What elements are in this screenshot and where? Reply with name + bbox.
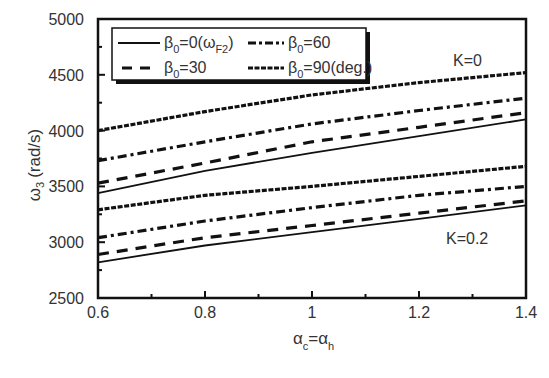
- series-line-shortdash-k02: [98, 166, 526, 210]
- x-tick-label: 0.6: [87, 304, 109, 321]
- annotation-k0: K=0: [453, 52, 482, 69]
- x-tick-label: 1.2: [408, 304, 430, 321]
- y-axis-label: ω3(rad/s): [25, 129, 46, 202]
- legend: β0=0(ωF2) β0=30 β0=60 β0=90(deg.): [112, 28, 372, 84]
- x-tick-label: 0.8: [194, 304, 216, 321]
- y-tick-label: 2500: [48, 290, 84, 307]
- y-tick-label: 4000: [48, 123, 84, 140]
- y-tick-label: 5000: [48, 11, 84, 28]
- x-tick-label: 1: [308, 304, 317, 321]
- annotation-k02: K=0.2: [446, 230, 488, 247]
- y-tick-label: 3000: [48, 234, 84, 251]
- x-tick-label: 1.4: [515, 304, 537, 321]
- x-axis-label: αc=αh: [293, 329, 334, 352]
- y-tick-label: 3500: [48, 178, 84, 195]
- chart: 0.60.811.21.4250030003500400045005000 ω3…: [0, 0, 549, 378]
- series-line-solid-k0: [98, 119, 526, 193]
- y-tick-label: 4500: [48, 67, 84, 84]
